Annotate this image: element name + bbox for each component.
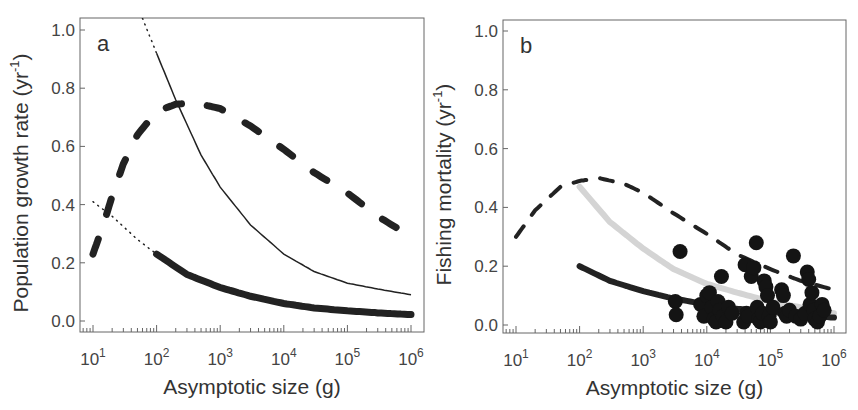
data-point bbox=[801, 272, 816, 287]
data-point bbox=[714, 269, 729, 284]
x-tick-label: 101 bbox=[503, 347, 529, 370]
plot-area bbox=[516, 178, 834, 330]
thick-dashed-line bbox=[93, 103, 411, 254]
x-axis-title: Asymptotic size (g) bbox=[163, 375, 340, 398]
data-point bbox=[749, 235, 764, 250]
y-tick-label: 0.8 bbox=[51, 79, 75, 98]
x-tick-label: 102 bbox=[567, 347, 593, 370]
plot-frame bbox=[80, 18, 424, 332]
panel-a: 0.00.20.40.60.81.0101102103104105106Asym… bbox=[7, 18, 424, 398]
x-axis-title: Asymptotic size (g) bbox=[586, 376, 763, 399]
data-point bbox=[817, 303, 832, 318]
y-tick-label: 0.4 bbox=[474, 198, 498, 217]
y-tick-label: 0.4 bbox=[51, 196, 75, 215]
x-tick-label: 103 bbox=[630, 347, 656, 370]
panel-label: b bbox=[520, 33, 532, 58]
data-point bbox=[763, 315, 778, 330]
y-axis-title: Fishing mortality (yr-1) bbox=[430, 84, 455, 286]
figure: 0.00.20.40.60.81.0101102103104105106Asym… bbox=[0, 0, 858, 410]
data-point bbox=[776, 288, 791, 303]
x-tick-label: 104 bbox=[694, 347, 720, 370]
x-tick-label: 106 bbox=[398, 346, 424, 369]
y-tick-label: 0.0 bbox=[474, 316, 498, 335]
panel-b: 0.00.20.40.60.81.0101102103104105106Asym… bbox=[430, 20, 847, 399]
thick-solid-line bbox=[157, 254, 411, 315]
y-tick-label: 0.6 bbox=[474, 140, 498, 159]
y-tick-label: 1.0 bbox=[51, 21, 75, 40]
x-tick-label: 102 bbox=[144, 346, 170, 369]
dotted-extension bbox=[93, 202, 157, 254]
x-tick-label: 101 bbox=[80, 346, 106, 369]
y-tick-label: 1.0 bbox=[474, 22, 498, 41]
panel-label: a bbox=[97, 31, 110, 56]
data-point bbox=[746, 260, 761, 275]
y-axis-title: Population growth rate (yr-1) bbox=[7, 53, 32, 312]
y-tick-label: 0.2 bbox=[474, 257, 498, 276]
x-tick-label: 103 bbox=[207, 346, 233, 369]
data-point bbox=[668, 294, 683, 309]
data-point bbox=[673, 244, 688, 259]
x-tick-label: 106 bbox=[821, 347, 847, 370]
scatter-points bbox=[668, 235, 832, 329]
x-tick-label: 105 bbox=[758, 347, 784, 370]
y-tick-label: 0.6 bbox=[51, 137, 75, 156]
x-tick-label: 105 bbox=[335, 346, 361, 369]
data-point bbox=[669, 307, 684, 322]
thin-solid-line bbox=[157, 53, 411, 294]
y-tick-label: 0.8 bbox=[474, 81, 498, 100]
y-tick-label: 0.0 bbox=[51, 312, 75, 331]
plot-frame bbox=[503, 20, 846, 333]
plot-area bbox=[93, 18, 411, 314]
y-tick-label: 0.2 bbox=[51, 254, 75, 273]
x-tick-label: 104 bbox=[271, 346, 297, 369]
data-point bbox=[804, 285, 819, 300]
data-point bbox=[786, 248, 801, 263]
dotted-extension bbox=[143, 18, 157, 53]
